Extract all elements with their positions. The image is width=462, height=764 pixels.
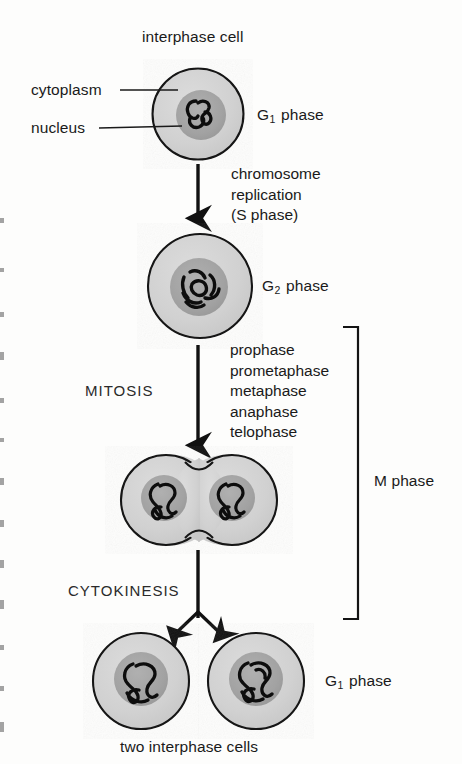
page-edge-artifact [0, 438, 4, 442]
figure-bottom-caption: two interphase cells [120, 738, 258, 756]
s-phase-transition-label: chromosome replication (S phase) [231, 164, 321, 226]
page-edge-artifact [0, 560, 4, 568]
nucleus-body [229, 652, 283, 706]
cytokinesis-label: CYTOKINESIS [68, 582, 180, 599]
s-phase-line-2: replication [231, 185, 321, 206]
page-edge-artifact [0, 520, 4, 527]
page-edge-artifact [0, 398, 4, 403]
nucleus-body-right [209, 475, 255, 521]
cytokinesis-arrow-right [198, 612, 221, 634]
arrow-cytokinesis [175, 550, 221, 634]
cytoplasm-label: cytoplasm [31, 81, 102, 99]
substage-metaphase: metaphase [230, 381, 329, 402]
g2-suffix: phase [282, 277, 329, 294]
substage-anaphase: anaphase [230, 402, 329, 423]
mitosis-substage-list: prophase prometaphase metaphase anaphase… [230, 340, 329, 443]
page-edge-artifact [0, 218, 4, 223]
g1-top-phase-label: G1 phase [257, 106, 324, 125]
nucleus-body [114, 652, 168, 706]
page-edge-artifact [0, 312, 4, 317]
page-edge-artifact [0, 645, 4, 650]
g1-bottom-suffix: phase [345, 672, 392, 689]
page-edge-artifact [0, 478, 4, 485]
cell-daughter-left [93, 633, 189, 729]
g1-top-suffix: phase [277, 106, 324, 123]
m-phase-bracket [343, 327, 358, 619]
page-edge-artifact [0, 600, 4, 609]
nucleus-body [176, 90, 226, 140]
g2-letter: G [262, 277, 274, 294]
g1-bottom-subscript: 1 [337, 679, 345, 691]
cell-telophase-two-lobed [121, 455, 277, 545]
g2-phase-label: G2 phase [262, 277, 329, 296]
page-edge-artifact [0, 352, 4, 360]
g1-bottom-phase-label: G1 phase [325, 672, 392, 691]
figure-canvas: interphase cell cytoplasm nucleus G1 pha… [0, 0, 462, 764]
substage-telophase: telophase [230, 422, 329, 443]
substage-prometaphase: prometaphase [230, 361, 329, 382]
cell-g1-top [153, 69, 244, 160]
m-phase-label: M phase [374, 472, 434, 490]
nucleus-label: nucleus [31, 119, 85, 137]
cell-daughter-right [208, 633, 304, 729]
page-edge-artifact [0, 722, 4, 732]
g1-top-subscript: 1 [269, 113, 277, 125]
nucleus-body-left [141, 475, 187, 521]
mitosis-label: MITOSIS [85, 382, 153, 399]
figure-top-caption: interphase cell [142, 28, 243, 46]
g1-bottom-letter: G [325, 672, 337, 689]
cytokinesis-arrow-left [175, 612, 198, 634]
substage-prophase: prophase [230, 340, 329, 361]
g2-subscript: 2 [274, 284, 282, 296]
cell-g2 [148, 234, 252, 338]
page-edge-artifact [0, 268, 4, 272]
s-phase-line-3: (S phase) [231, 205, 321, 226]
page-edge-artifact [0, 686, 4, 691]
s-phase-line-1: chromosome [231, 164, 321, 185]
g1-top-letter: G [257, 106, 269, 123]
